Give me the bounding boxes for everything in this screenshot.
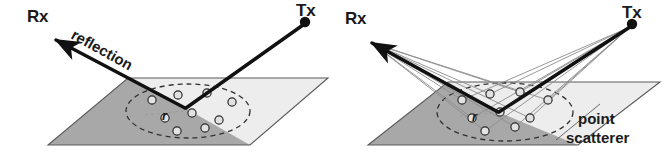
point-scatterer [215, 116, 223, 124]
point-scatterer [511, 123, 519, 131]
point-scatterer [526, 114, 534, 122]
rx-label: Rx [27, 7, 49, 26]
point-scatterer-annotation-line2: scatterer [566, 129, 630, 146]
rx-label: Rx [345, 9, 367, 28]
point-scatterer [174, 91, 182, 99]
point-scatterer [201, 124, 209, 132]
point-scatterer [228, 98, 236, 106]
point-scatterer-annotation-line1: point [578, 110, 615, 127]
tx-label: Tx [296, 1, 316, 20]
scattered-ray-thin [372, 43, 490, 94]
point-scatterer [458, 96, 466, 104]
radar-scattering-figure: r Rx Tx reflection [0, 0, 670, 160]
point-scatterer [148, 96, 156, 104]
point-scatterer [188, 109, 196, 117]
diagram-canvas: r Rx Tx reflection [0, 0, 670, 160]
specular-reflection-panel: r Rx Tx reflection [27, 1, 328, 145]
point-scatterer [481, 127, 489, 135]
point-scatterer-panel: r Rx Tx point scatterer [345, 3, 660, 146]
point-scatterer [173, 127, 181, 135]
point-scatterer [544, 96, 552, 104]
point-scatterer [486, 90, 494, 98]
tx-label: Tx [622, 3, 642, 22]
